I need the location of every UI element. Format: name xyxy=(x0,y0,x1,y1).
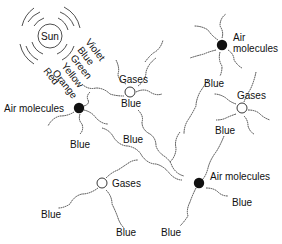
gas-molecule-icon xyxy=(125,87,135,97)
air3-label: Air molecules xyxy=(210,171,270,182)
gas2-label: Gases xyxy=(237,90,266,101)
air-molecule-icon xyxy=(74,103,84,113)
air2-label-line2: molecules xyxy=(233,43,278,54)
air1-label: Air molecules xyxy=(4,103,64,114)
blue-label: Blue xyxy=(232,197,252,208)
gas-molecule-icon xyxy=(97,178,107,188)
air-molecule-icon xyxy=(217,40,227,50)
sun-label: Sun xyxy=(41,31,59,42)
gas1-label: Gases xyxy=(119,74,148,85)
spectrum-labels: Violet Blue Green Yellow Orange Red xyxy=(41,36,107,100)
blue-label: Blue xyxy=(123,134,143,145)
nodes: Air molecules Gases Air molecules Gases … xyxy=(4,32,278,189)
air2-label-line1: Air xyxy=(233,32,246,43)
blue-label: Blue xyxy=(215,125,235,136)
air-molecule-icon xyxy=(194,178,204,188)
blue-label: Blue xyxy=(70,139,90,150)
sun: Sun xyxy=(20,7,80,64)
blue-label: Blue xyxy=(121,98,141,109)
blue-label: Blue xyxy=(161,227,181,238)
blue-labels: Blue Blue Blue Blue Blue Blue Blue Blue … xyxy=(41,78,252,238)
blue-label: Blue xyxy=(116,227,136,238)
blue-label: Blue xyxy=(204,78,224,89)
gas-molecule-icon xyxy=(237,103,247,113)
gas3-label: Gases xyxy=(112,178,141,189)
blue-label: Blue xyxy=(41,209,61,220)
light-scattering-diagram: Sun Violet Blue Green Yellow Orange Red xyxy=(0,0,282,244)
